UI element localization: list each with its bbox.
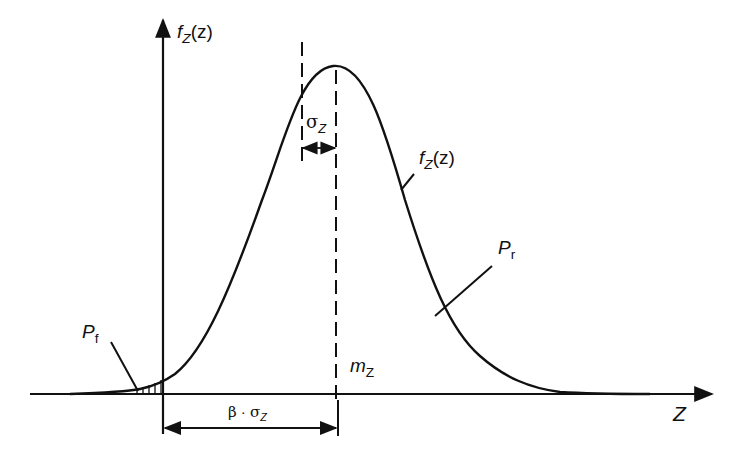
y-axis-label: fZ(z) xyxy=(177,22,213,41)
pdf-curve xyxy=(70,66,650,394)
failure-label: Pf xyxy=(82,322,99,341)
failure-leader xyxy=(111,342,138,391)
reliability-main: P xyxy=(498,237,511,258)
curve-label-arg: (z) xyxy=(433,147,455,168)
dot-symbol: · xyxy=(241,403,246,420)
failure-main: P xyxy=(82,321,95,342)
x-label-main: Z xyxy=(673,402,686,425)
y-label-sub: Z xyxy=(182,31,190,46)
x-axis-label: Z xyxy=(673,403,686,424)
mean-label: mZ xyxy=(350,356,374,375)
mean-main: m xyxy=(350,355,366,376)
curve-label: fZ(z) xyxy=(419,148,455,167)
beta-sigma-symbol: σ xyxy=(250,403,260,421)
failure-sub: f xyxy=(95,331,99,346)
sigma-label: σZ xyxy=(306,113,326,131)
mean-sub: Z xyxy=(366,365,374,380)
reliability-sub: r xyxy=(511,247,516,262)
curve-label-leader xyxy=(401,174,414,190)
beta-sigma-label: β · σZ xyxy=(228,404,267,420)
curve-label-sub: Z xyxy=(424,157,432,172)
reliability-diagram: fZ(z) fZ(z) σZ Pr Pf mZ β · σZ Z xyxy=(0,0,733,454)
beta-sigma-sub: Z xyxy=(260,411,267,423)
sigma-sub: Z xyxy=(318,121,326,136)
reliability-leader xyxy=(435,266,492,316)
y-label-arg: (z) xyxy=(191,21,213,42)
diagram-canvas xyxy=(0,0,733,454)
sigma-symbol: σ xyxy=(306,111,318,132)
failure-region-hatch xyxy=(137,380,161,394)
beta-symbol: β xyxy=(228,403,237,421)
reliability-label: Pr xyxy=(498,238,515,257)
